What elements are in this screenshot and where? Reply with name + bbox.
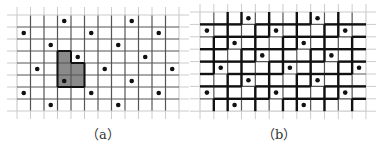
dot-marker <box>357 66 362 71</box>
dot-marker <box>102 67 107 72</box>
caption-b: （b） <box>262 124 296 143</box>
dot-marker <box>343 28 348 33</box>
dot-marker <box>205 28 210 33</box>
dot-marker <box>232 41 237 46</box>
dot-marker <box>62 19 67 24</box>
caption-a: （a） <box>86 124 120 143</box>
dot-marker <box>48 103 53 108</box>
dot-marker <box>246 16 251 21</box>
dot-marker <box>75 55 80 60</box>
dot-marker <box>170 67 175 72</box>
dot-marker <box>274 90 279 95</box>
dot-marker <box>116 103 121 108</box>
highlight-cell <box>58 63 72 75</box>
dot-marker <box>21 91 26 96</box>
dot-marker <box>343 90 348 95</box>
dot-marker <box>129 19 134 24</box>
dot-marker <box>143 55 148 60</box>
dot-marker <box>288 66 293 71</box>
dot-marker <box>315 16 320 21</box>
dot-marker <box>315 78 320 83</box>
figure <box>0 0 377 154</box>
dot-marker <box>329 53 334 58</box>
dot-marker <box>301 103 306 108</box>
dot-marker <box>156 91 161 96</box>
dot-marker <box>246 78 251 83</box>
dot-marker <box>89 91 94 96</box>
dot-marker <box>48 43 53 48</box>
dot-marker <box>62 79 67 84</box>
dot-marker <box>205 90 210 95</box>
dot-marker <box>35 67 40 72</box>
highlight-cell <box>71 63 85 75</box>
dot-marker <box>21 31 26 36</box>
dot-marker <box>129 79 134 84</box>
dot-marker <box>89 31 94 36</box>
dot-marker <box>260 53 265 58</box>
highlight-cell <box>71 75 85 87</box>
dot-marker <box>232 103 237 108</box>
dot-marker <box>116 43 121 48</box>
dot-marker <box>218 66 223 71</box>
dot-marker <box>301 41 306 46</box>
dot-marker <box>274 28 279 33</box>
dot-marker <box>156 31 161 36</box>
highlight-cell <box>58 51 72 63</box>
